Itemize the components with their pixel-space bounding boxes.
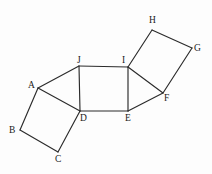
vertex-label-b: B: [9, 126, 15, 136]
segment-HG: [152, 30, 192, 48]
vertex-label-f: F: [164, 94, 169, 104]
segment-FE: [128, 93, 163, 111]
segment-BC: [20, 130, 58, 152]
vertex-label-a: A: [28, 81, 35, 91]
segment-CD: [58, 111, 80, 152]
segment-IH: [128, 30, 152, 67]
segment-GF: [163, 48, 192, 93]
vertex-label-i: I: [122, 56, 125, 66]
segment-AB: [20, 88, 38, 130]
segment-DA: [38, 88, 80, 111]
vertex-label-g: G: [194, 44, 201, 54]
vertex-label-h: H: [149, 16, 156, 26]
vertex-label-c: C: [55, 155, 61, 165]
vertex-label-j: J: [77, 56, 81, 66]
vertex-label-d: D: [80, 114, 87, 124]
edges-group: [20, 30, 192, 152]
segment-AJ: [38, 66, 79, 88]
vertex-label-e: E: [125, 114, 131, 124]
segment-JI: [79, 66, 128, 67]
geometry-figure-canvas: ABCDEFGHIJ: [0, 0, 212, 174]
segment-JD: [79, 66, 80, 111]
segment-IF: [128, 67, 163, 93]
